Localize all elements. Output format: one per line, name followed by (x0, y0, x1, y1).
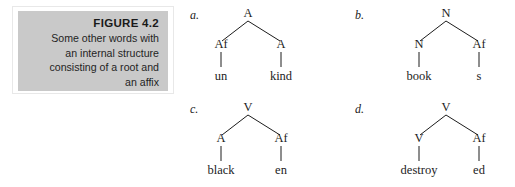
tree-b-root-node: N (441, 6, 450, 21)
tree-c-child-2-category: Af (274, 131, 287, 146)
syntax-tree-a: a. A Af A un kind (182, 0, 347, 93)
figure-caption-block: FIGURE 4.2 Some other words with an inte… (12, 6, 174, 94)
tree-a-child-1-category: Af (214, 37, 227, 52)
tree-b-leaf-1-word: book (407, 69, 432, 84)
tree-a-child-2-category: A (276, 37, 285, 52)
tree-b-leaf-2-word: s (477, 69, 482, 84)
syntax-tree-b: b. N N Af book s (347, 0, 512, 93)
tree-c-child-1-category: A (216, 131, 225, 146)
tree-a-leaf-2-word: kind (270, 69, 292, 84)
figure-number: FIGURE 4.2 (24, 16, 159, 30)
tree-a-branches (182, 0, 347, 93)
tree-d-child-1-category: V (414, 131, 423, 146)
tree-d-root-node: V (441, 100, 450, 115)
tree-b-child-2-category: Af (472, 37, 485, 52)
tree-c-root-node: V (243, 100, 252, 115)
syntax-tree-d: d. V V Af destroy ed (347, 94, 512, 187)
tree-c-leaf-1-word: black (207, 163, 234, 178)
tree-a-root-node: A (243, 6, 252, 21)
tree-b-child-1-category: N (414, 37, 423, 52)
caption-line-2: an internal structure (24, 46, 159, 61)
tree-a-leaf-1-word: un (215, 69, 228, 84)
caption-line-4: an affix (24, 75, 159, 90)
caption-line-3: consisting of a root and (24, 60, 159, 75)
figure-caption-text: Some other words with an internal struct… (24, 31, 159, 89)
caption-panel: FIGURE 4.2 Some other words with an inte… (18, 11, 168, 91)
tree-d-leaf-2-word: ed (473, 163, 485, 178)
tree-d-child-2-category: Af (472, 131, 485, 146)
tree-c-leaf-2-word: en (275, 163, 287, 178)
caption-line-1: Some other words with (24, 31, 159, 46)
syntax-tree-c: c. V A Af black en (182, 94, 347, 187)
tree-d-leaf-1-word: destroy (401, 163, 438, 178)
